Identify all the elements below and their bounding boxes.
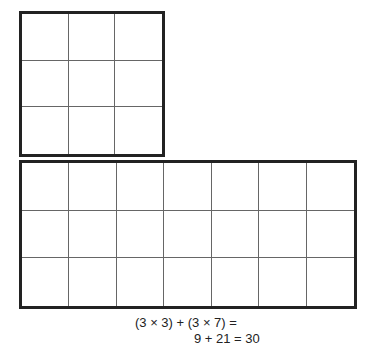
grid-3x3 <box>19 11 165 157</box>
grid-cell <box>22 163 69 211</box>
grid-cell <box>115 61 162 108</box>
equation-line-2: 9 + 21 = 30 <box>194 331 260 346</box>
grid-cell <box>259 163 306 211</box>
grid-cell <box>307 211 354 259</box>
grid-cell <box>115 107 162 154</box>
equation-line-1: (3 × 3) + (3 × 7) = <box>135 315 237 330</box>
grid-cell <box>117 163 164 211</box>
grid-cell <box>22 107 69 154</box>
grid-cell <box>212 211 259 259</box>
grid-cell <box>259 211 306 259</box>
grid-cell <box>22 258 69 306</box>
grid-cell <box>164 258 211 306</box>
grid-cell <box>115 14 162 61</box>
grid-cell <box>69 14 116 61</box>
grid-cell <box>212 258 259 306</box>
grid-cell <box>22 61 69 108</box>
grid-cell <box>69 163 116 211</box>
grid-cell <box>259 258 306 306</box>
grid-cell <box>212 163 259 211</box>
grid-cell <box>69 211 116 259</box>
grid-cell <box>69 61 116 108</box>
grid-3x7 <box>19 160 357 309</box>
grid-cell <box>22 14 69 61</box>
grid-cell <box>117 211 164 259</box>
grid-cell <box>117 258 164 306</box>
grid-cell <box>69 258 116 306</box>
grid-cell <box>69 107 116 154</box>
grid-cell <box>22 211 69 259</box>
grid-cell <box>307 258 354 306</box>
grid-cell <box>164 211 211 259</box>
grid-cell <box>307 163 354 211</box>
grid-cell <box>164 163 211 211</box>
